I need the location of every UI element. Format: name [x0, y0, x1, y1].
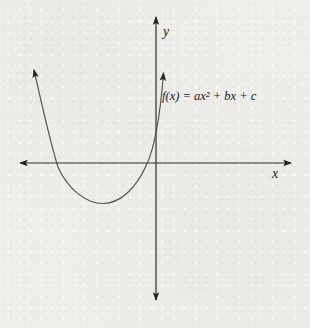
- y-axis-label: y: [161, 24, 170, 39]
- parabola-curve: [34, 70, 164, 204]
- x-axis-label: x: [271, 166, 279, 181]
- figure-container: y x f(x) = ax² + bx + c: [0, 0, 310, 328]
- function-label: f(x) = ax² + bx + c: [162, 89, 257, 103]
- graph-canvas: y x f(x) = ax² + bx + c: [0, 0, 310, 328]
